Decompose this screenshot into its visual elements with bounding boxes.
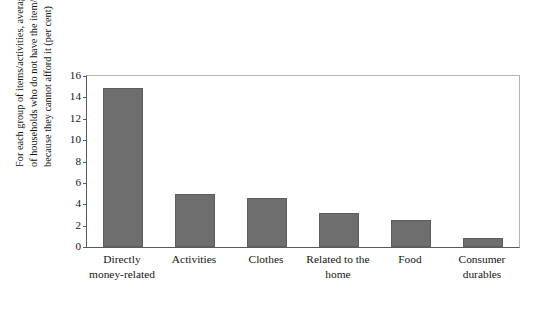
x-tick-label-line: Food [374, 252, 446, 267]
y-axis-label-line-2: of households who do not have the item/a… [28, 0, 39, 167]
y-tick-label: 14 [61, 92, 81, 103]
y-tick-label: 0 [61, 241, 81, 252]
y-axis-label: For each group of items/activities, aver… [0, 0, 62, 323]
bar [175, 194, 215, 247]
bar [247, 198, 287, 247]
x-tick-label: Clothes [230, 252, 302, 267]
y-axis-label-line-3: because they cannot afford it (per cent) [42, 6, 53, 167]
bar [463, 238, 503, 247]
x-tick-label: Directlymoney-related [86, 252, 158, 281]
y-tick-label: 8 [61, 156, 81, 167]
bar-series [87, 76, 519, 247]
x-tick-label: Activities [158, 252, 230, 267]
bar [319, 213, 359, 247]
bar [391, 220, 431, 247]
bar [103, 88, 143, 247]
y-tick-label: 2 [61, 220, 81, 231]
x-tick-label-line: Clothes [230, 252, 302, 267]
x-tick-label-line: Consumer [446, 252, 518, 267]
y-tick-label: 16 [61, 70, 81, 81]
y-axis-label-line-1: For each group of items/activities, aver… [14, 0, 25, 167]
y-tick-label: 12 [61, 113, 81, 124]
x-tick-label-line: durables [446, 267, 518, 282]
y-tick-label: 10 [61, 135, 81, 146]
bar-chart-figure: For each group of items/activities, aver… [0, 0, 537, 323]
x-axis-labels: Directlymoney-relatedActivitiesClothesRe… [86, 252, 520, 312]
y-tick-label: 4 [61, 199, 81, 210]
x-tick-label: Food [374, 252, 446, 267]
x-tick-label-line: Activities [158, 252, 230, 267]
x-tick-label-line: Directly [86, 252, 158, 267]
plot-area: 0246810121416 [86, 75, 520, 248]
x-tick-label-line: home [302, 267, 374, 282]
y-tick-mark [83, 247, 87, 248]
x-tick-label: Related to thehome [302, 252, 374, 281]
x-tick-label-line: money-related [86, 267, 158, 282]
x-tick-label: Consumerdurables [446, 252, 518, 281]
x-tick-label-line: Related to the [302, 252, 374, 267]
y-tick-label: 6 [61, 177, 81, 188]
